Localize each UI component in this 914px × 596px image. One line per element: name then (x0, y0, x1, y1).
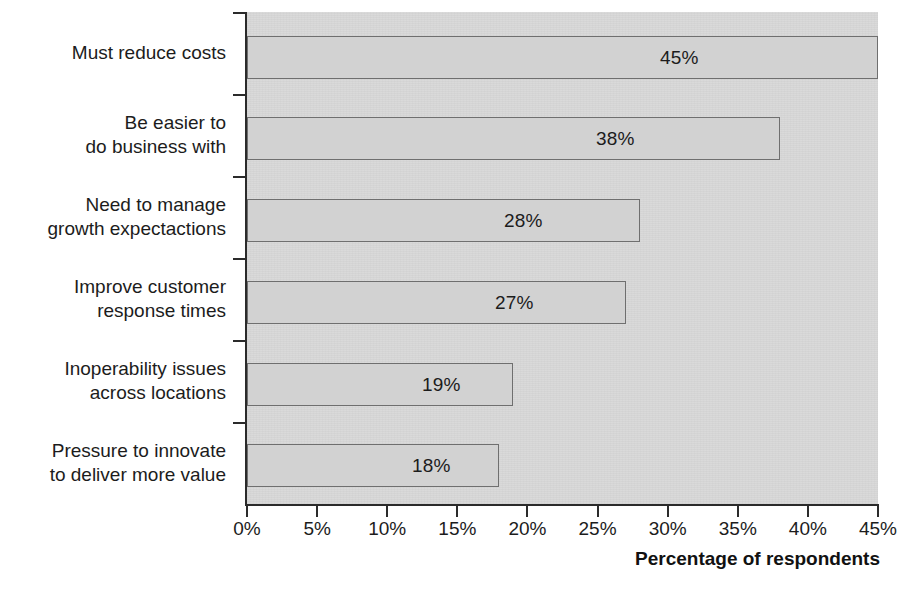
x-axis-tick-label: 10% (368, 518, 406, 540)
x-axis-tick-label: 35% (719, 518, 757, 540)
bar-need-to-manage-growth-expectations (247, 199, 640, 242)
category-label-inoperability-issues-across-locations: Inoperability issues across locations (64, 357, 226, 405)
x-axis-tick (456, 504, 458, 517)
x-axis-tick-label: 25% (579, 518, 617, 540)
x-axis-title: Percentage of respondents (430, 548, 880, 570)
bar-value-label: 18% (412, 455, 451, 477)
category-label-need-to-manage-growth-expectations: Need to manage growth expectactions (48, 193, 227, 241)
x-axis-tick (807, 504, 809, 517)
x-axis-tick-label: 45% (859, 518, 897, 540)
bar-value-label: 38% (596, 128, 635, 150)
y-axis-tick (233, 94, 246, 96)
category-label-improve-customer-response-times: Improve customer response times (74, 275, 226, 323)
x-axis-tick-label: 0% (233, 518, 260, 540)
bar-inoperability-issues-across-locations (247, 363, 513, 406)
x-axis-tick (737, 504, 739, 517)
x-axis-tick-label: 30% (649, 518, 687, 540)
x-axis-tick (316, 504, 318, 517)
bar-improve-customer-response-times (247, 281, 626, 324)
bar-pressure-to-innovate-to-deliver-more-value (247, 444, 499, 487)
bar-value-label: 19% (422, 374, 461, 396)
bar-be-easier-to-do-business-with (247, 117, 780, 160)
x-axis-tick (667, 504, 669, 517)
bar-must-reduce-costs (247, 36, 878, 79)
bar-value-label: 28% (504, 210, 543, 232)
y-axis-tick (233, 176, 246, 178)
x-axis-tick (526, 504, 528, 517)
x-axis-tick-label: 15% (438, 518, 476, 540)
x-axis-tick (877, 504, 879, 517)
category-label-must-reduce-costs: Must reduce costs (72, 41, 226, 65)
y-axis-tick (233, 340, 246, 342)
bar-value-label: 27% (495, 292, 534, 314)
category-label-be-easier-to-do-business-with: Be easier to do business with (86, 111, 226, 159)
y-axis-tick (233, 12, 246, 14)
x-axis-tick-label: 5% (303, 518, 330, 540)
x-axis-tick-label: 20% (508, 518, 546, 540)
x-axis-tick (386, 504, 388, 517)
category-label-pressure-to-innovate-to-deliver-more-value: Pressure to innovate to deliver more val… (50, 439, 226, 487)
x-axis-tick-label: 40% (789, 518, 827, 540)
plot-area: 45% 38% 28% 27% 19% 18% (247, 12, 878, 504)
x-axis-tick (597, 504, 599, 517)
y-axis-tick (233, 422, 246, 424)
x-axis-line (245, 504, 878, 506)
bar-chart-figure: 45% 38% 28% 27% 19% 18% Must reduce cost… (0, 0, 914, 596)
y-axis-tick (233, 258, 246, 260)
bar-value-label: 45% (660, 47, 699, 69)
x-axis-tick (246, 504, 248, 517)
